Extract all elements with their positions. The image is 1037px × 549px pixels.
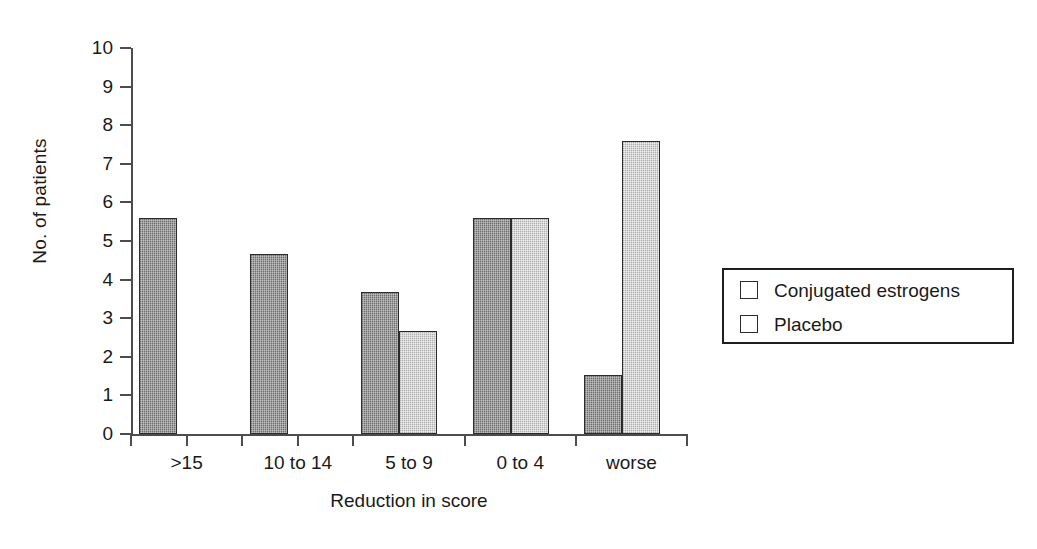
y-axis-line [131,48,133,434]
x-axis-tick [464,434,466,446]
y-axis-tick-label: 8 [75,115,113,134]
x-axis-tick [130,434,132,446]
x-axis-tick [686,434,688,446]
y-axis-tick-label: 6 [75,192,113,211]
x-axis-tick-label: 0 to 4 [465,452,576,474]
y-axis-tick-label: 3 [75,308,113,327]
bar-0-2 [361,292,399,434]
x-axis-title: Reduction in score [131,490,687,512]
bar-0-4 [584,375,622,434]
legend-box: Conjugated estrogens Placebo [722,268,1014,344]
y-axis-tick [120,279,131,281]
y-axis-tick-label: 5 [75,231,113,250]
y-axis-tick-label: 2 [75,347,113,366]
x-axis-line [131,434,687,436]
y-axis-tick [120,163,131,165]
x-axis-tick [575,434,577,446]
y-axis-title: No. of patients [29,101,51,301]
y-axis-tick-label: 10 [75,38,113,57]
legend-label-conjugated-estrogens: Conjugated estrogens [774,281,960,300]
y-axis-tick-label: 0 [75,424,113,443]
x-axis-tick [352,434,354,446]
y-axis-tick-label: 1 [75,385,113,404]
y-axis-tick [120,356,131,358]
y-axis-tick-label: 9 [75,77,113,96]
y-axis-tick [120,47,131,49]
bar-1-2 [399,331,437,434]
x-axis-tick-label: 10 to 14 [242,452,353,474]
bar-0-3 [473,218,511,434]
legend-item-conjugated-estrogens[interactable]: Conjugated estrogens [740,278,960,302]
x-axis-tick-label: worse [576,452,687,474]
legend-item-placebo[interactable]: Placebo [740,312,843,336]
legend-swatch-placebo [740,315,758,333]
y-axis-tick [120,86,131,88]
x-axis-tick-label: 5 to 9 [353,452,464,474]
y-axis-tick [120,201,131,203]
x-axis-tick-label: >15 [131,452,242,474]
bar-0-1 [250,254,288,434]
x-axis-minor-tick [186,434,188,446]
bar-chart-figure: No. of patients 012345678910 >1510 to 14… [0,0,1037,549]
plot-area: 012345678910 >1510 to 145 to 90 to 4wors… [131,48,687,434]
y-axis-tick-label: 7 [75,154,113,173]
bar-1-4 [622,141,660,434]
y-axis-tick-label: 4 [75,270,113,289]
legend-swatch-conjugated-estrogens [740,281,758,299]
x-axis-tick [241,434,243,446]
x-axis-minor-tick [297,434,299,446]
y-axis-tick [120,124,131,126]
y-axis-tick [120,317,131,319]
y-axis-tick [120,240,131,242]
y-axis-tick [120,394,131,396]
bar-0-0 [139,218,177,434]
bar-1-3 [511,218,549,434]
legend-label-placebo: Placebo [774,315,843,334]
